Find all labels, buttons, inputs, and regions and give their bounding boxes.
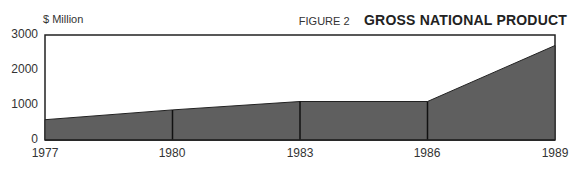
x-tick-1989: 1989 xyxy=(542,146,569,160)
x-tick-1986: 1986 xyxy=(414,146,441,160)
x-tick-1977: 1977 xyxy=(32,146,59,160)
x-tick-1980: 1980 xyxy=(159,146,186,160)
x-tick-1983: 1983 xyxy=(287,146,314,160)
